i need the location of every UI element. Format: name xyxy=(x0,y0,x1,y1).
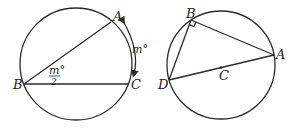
arc-label: m° xyxy=(132,43,148,56)
inscribed-angle-figure: A B C m° 2 m° xyxy=(12,8,148,120)
right-angle-diameter-figure: A B C D xyxy=(157,6,285,119)
point-label-c: C xyxy=(131,77,141,92)
point-label-a: A xyxy=(275,47,285,62)
point-label-b: B xyxy=(12,77,23,92)
angle-numerator: m° xyxy=(49,64,65,77)
angle-denominator: 2 xyxy=(50,77,57,87)
point-label-d: D xyxy=(157,77,169,92)
circle-1 xyxy=(20,8,132,120)
circle-2 xyxy=(167,11,275,119)
point-label-a: A xyxy=(112,9,122,24)
geometry-diagram: A B C m° 2 m° A B C D xyxy=(0,0,296,132)
point-label-c: C xyxy=(219,68,229,83)
point-label-b: B xyxy=(185,6,196,21)
chord-ba xyxy=(191,20,274,55)
chord-ba xyxy=(24,22,111,84)
